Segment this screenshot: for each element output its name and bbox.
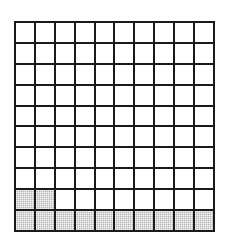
grid-cell-empty [36,148,54,167]
grid-cell-empty [16,107,34,126]
grid-cell-empty [16,23,34,42]
grid-cell-empty [175,23,193,42]
grid-cell-empty [135,127,153,146]
grid-cell-empty [115,44,133,63]
grid-cell-empty [16,65,34,84]
grid-cell-empty [96,190,114,209]
grid-cell-empty [115,65,133,84]
grid-cell-shaded [155,211,173,230]
grid-cell-empty [115,23,133,42]
grid-cell-empty [76,148,94,167]
grid-cell-empty [96,127,114,146]
grid-cell-empty [155,127,173,146]
grid-cell-empty [195,23,213,42]
grid-cell-empty [16,148,34,167]
grid-cell-empty [175,107,193,126]
grid-cell-empty [175,65,193,84]
grid-cell-shaded [96,211,114,230]
grid-cell-empty [195,190,213,209]
grid-cell-empty [175,190,193,209]
grid-cell-empty [135,23,153,42]
grid-cell-empty [76,23,94,42]
grid-cell-empty [135,169,153,188]
figure-root [0,0,227,245]
grid-cell-empty [56,190,74,209]
grid-cell-empty [96,86,114,105]
grid-cell-empty [76,169,94,188]
grid-cell-empty [96,23,114,42]
grid-cell-empty [76,190,94,209]
grid-cell-empty [195,127,213,146]
grid-cell-empty [36,23,54,42]
grid-cell-empty [76,107,94,126]
grid-cell-empty [175,44,193,63]
grid-cell-empty [56,107,74,126]
grid-cell-shaded [16,211,34,230]
grid-cell-empty [96,107,114,126]
grid-cell-empty [56,169,74,188]
grid-cell-empty [56,86,74,105]
grid-cell-empty [36,44,54,63]
grid-cell-shaded [36,211,54,230]
grid-cell-empty [195,44,213,63]
grid-cell-empty [115,169,133,188]
grid-cell-empty [155,65,173,84]
grid-cell-empty [115,107,133,126]
grid-cell-empty [155,107,173,126]
grid-cell-empty [96,148,114,167]
grid-cell-empty [175,169,193,188]
grid-cell-empty [96,65,114,84]
grid-cell-empty [56,127,74,146]
grid-cell-shaded [135,211,153,230]
grid-cell-empty [76,127,94,146]
grid-cell-empty [135,190,153,209]
grid-cell-empty [36,65,54,84]
grid-cell-shaded [16,190,34,209]
grid-cell-empty [195,169,213,188]
grid-cell-empty [115,86,133,105]
grid-cell-empty [115,148,133,167]
grid-cell-empty [155,44,173,63]
grid-cell-empty [135,65,153,84]
grid-cell-shaded [56,211,74,230]
grid-cell-empty [155,190,173,209]
grid-cell-empty [16,86,34,105]
grid-cell-empty [16,169,34,188]
grid-cell-empty [56,65,74,84]
grid-cell-empty [96,44,114,63]
grid-cell-empty [115,190,133,209]
grid-cell-empty [56,44,74,63]
grid-cell-empty [195,148,213,167]
grid-cell-shaded [36,190,54,209]
grid-cell-empty [16,127,34,146]
grid-cell-empty [155,148,173,167]
grid-cell-empty [135,148,153,167]
grid-cell-empty [175,148,193,167]
grid-10x10 [14,21,215,232]
grid-cell-shaded [175,211,193,230]
grid-cell-empty [195,86,213,105]
grid-cell-empty [175,127,193,146]
grid-cell-empty [155,86,173,105]
grid-cell-shaded [76,211,94,230]
grid-cell-empty [115,127,133,146]
grid-cell-empty [175,86,193,105]
grid-cell-empty [16,44,34,63]
grid-cell-empty [155,23,173,42]
grid-cell-empty [36,86,54,105]
grid-cell-empty [36,127,54,146]
grid-cell-empty [135,86,153,105]
grid-cell-empty [96,169,114,188]
grid-cell-empty [56,23,74,42]
grid-cell-empty [135,107,153,126]
grid-cell-shaded [115,211,133,230]
grid-cell-empty [195,107,213,126]
grid-cell-empty [76,86,94,105]
grid-cell-empty [36,169,54,188]
grid-cell-empty [135,44,153,63]
grid-cell-shaded [195,211,213,230]
grid-cell-empty [195,65,213,84]
grid-cell-empty [155,169,173,188]
grid-cell-empty [76,44,94,63]
grid-cell-empty [76,65,94,84]
